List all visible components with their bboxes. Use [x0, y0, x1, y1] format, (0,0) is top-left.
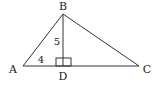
measure-ad: 4 — [38, 54, 44, 65]
segment-bc — [63, 14, 139, 66]
vertex-label-c: C — [143, 63, 151, 76]
measure-bd: 5 — [54, 36, 60, 47]
vertex-label-a: A — [8, 63, 18, 76]
vertex-label-b: B — [59, 0, 67, 13]
triangle-diagram: B A C D 5 4 — [0, 0, 157, 91]
vertex-label-d: D — [59, 70, 68, 83]
